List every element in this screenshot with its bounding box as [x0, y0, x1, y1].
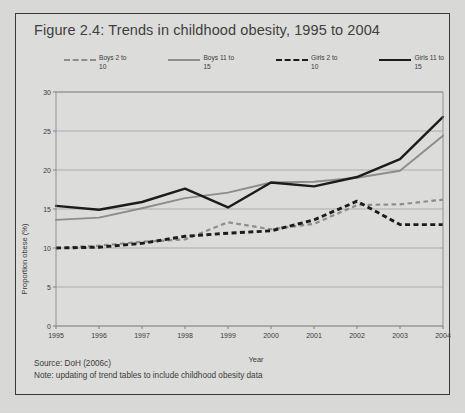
y-axis-label: Proportion obese (%) [20, 223, 29, 294]
legend-swatch-girls-11-15 [379, 55, 411, 65]
figure-card: Figure 2.4: Trends in childhood obesity,… [15, 13, 450, 395]
svg-text:1995: 1995 [48, 332, 64, 339]
svg-text:2003: 2003 [392, 332, 408, 339]
figure-title: Figure 2.4: Trends in childhood obesity,… [34, 22, 380, 38]
x-tick-labels: 1995199619971998199920002001200220032004 [48, 332, 451, 339]
svg-text:25: 25 [43, 128, 51, 135]
figure-page: Figure 2.4: Trends in childhood obesity,… [0, 0, 465, 413]
legend-swatch-girls-2-10 [276, 55, 308, 65]
chart-plot-area: 051015202530 199519961997199819992000200… [16, 74, 451, 364]
svg-text:1999: 1999 [220, 332, 236, 339]
svg-text:15: 15 [43, 206, 51, 213]
note-line: Note: updating of trend tables to includ… [34, 370, 263, 382]
source-line: Source: DoH (2006c) [34, 358, 263, 370]
svg-text:10: 10 [43, 245, 51, 252]
svg-text:1996: 1996 [91, 332, 107, 339]
gridlines [56, 92, 443, 326]
svg-text:2000: 2000 [263, 332, 279, 339]
svg-text:2001: 2001 [306, 332, 322, 339]
svg-text:5: 5 [47, 284, 51, 291]
legend-swatch-boys-2-10 [64, 55, 96, 65]
axis-lines [53, 92, 443, 329]
svg-text:0: 0 [47, 323, 51, 330]
line-chart: 051015202530 199519961997199819992000200… [16, 74, 451, 364]
legend-label-girls-2-10: Girls 2 to 10 [311, 54, 337, 71]
svg-text:1997: 1997 [134, 332, 150, 339]
legend-label-boys-11-15: Boys 11 to 15 [203, 54, 234, 71]
legend-label-boys-2-10: Boys 2 to 10 [99, 54, 127, 71]
legend-swatch-boys-11-15 [168, 55, 200, 65]
svg-text:2002: 2002 [349, 332, 365, 339]
legend-item-girls-11-15[interactable]: Girls 11 to 15 [379, 54, 444, 71]
legend-item-boys-11-15[interactable]: Boys 11 to 15 [168, 54, 234, 71]
legend-label-girls-11-15: Girls 11 to 15 [414, 54, 444, 71]
legend-item-girls-2-10[interactable]: Girls 2 to 10 [276, 54, 337, 71]
svg-text:20: 20 [43, 167, 51, 174]
y-tick-labels: 051015202530 [43, 89, 51, 330]
svg-text:2004: 2004 [435, 332, 451, 339]
svg-text:1998: 1998 [177, 332, 193, 339]
svg-text:30: 30 [43, 89, 51, 96]
series-lines [56, 117, 443, 248]
figure-footer: Source: DoH (2006c) Note: updating of tr… [34, 358, 263, 382]
legend-item-boys-2-10[interactable]: Boys 2 to 10 [64, 54, 127, 71]
